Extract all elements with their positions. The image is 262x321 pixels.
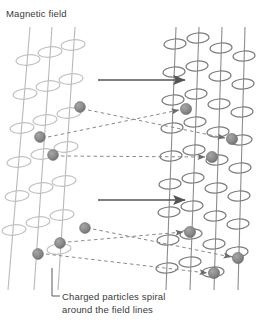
particle: [208, 267, 219, 278]
field-line-R1: [156, 27, 187, 290]
diagram-canvas: Magnetic field Charged particles spiral …: [0, 0, 262, 321]
left-field-region: [2, 27, 86, 290]
caption-line-1: Charged particles spiral: [62, 291, 165, 302]
particle: [35, 132, 46, 143]
helix-coils-R4: [226, 50, 256, 258]
field-line-R4: [226, 27, 256, 290]
trajectory-line: [93, 229, 231, 257]
particle: [232, 252, 243, 263]
particle: [180, 103, 191, 114]
particle: [55, 238, 66, 249]
right-field-region: [156, 27, 256, 290]
particle: [33, 249, 44, 260]
helix-coils-L1: [2, 54, 41, 237]
magnetic-field-label: Magnetic field: [6, 8, 67, 19]
particle: [206, 151, 217, 162]
particle: [184, 226, 195, 237]
trajectory-line: [61, 156, 205, 157]
trajectory-line: [48, 110, 179, 137]
particle: [80, 223, 91, 234]
dashed-trajectories: [46, 110, 231, 273]
field-line-R2: [179, 27, 210, 290]
particle: [226, 133, 237, 144]
particle: [48, 150, 59, 161]
trajectory-line: [46, 254, 207, 273]
magnetic-field-diagram: Magnetic field Charged particles spiral …: [0, 0, 262, 321]
particle: [75, 102, 86, 113]
caption-line-2: around the field lines: [62, 304, 153, 315]
helix-coils-L3: [47, 39, 86, 256]
